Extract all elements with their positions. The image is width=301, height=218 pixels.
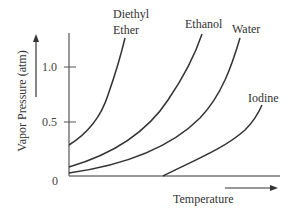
y-tick-label-0-5: 0.5 <box>42 116 57 128</box>
y-tick-label-0: 0 <box>52 175 58 187</box>
label-ether: Ether <box>113 24 139 36</box>
curve-water <box>69 38 240 173</box>
label-ethanol: Ethanol <box>185 18 222 30</box>
curve-diethyl-ether <box>69 38 125 145</box>
x-axis-label: Temperature <box>173 193 233 205</box>
curve-ethanol <box>69 34 202 167</box>
label-iodine: Iodine <box>248 92 279 104</box>
y-arrow-head-icon <box>33 34 39 42</box>
label-water: Water <box>232 23 260 35</box>
curve-iodine <box>163 105 262 176</box>
label-diethyl: Diethyl <box>113 8 149 20</box>
x-arrow-head-icon <box>270 185 278 191</box>
y-tick-label-1-0: 1.0 <box>42 61 57 73</box>
y-axis-label: Vapor Pressure (atm) <box>16 41 28 161</box>
